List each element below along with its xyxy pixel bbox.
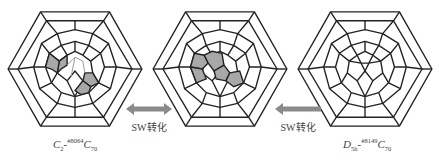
sw-transformation-label: SW转化 <box>126 119 172 134</box>
molecule-c2-8064 <box>6 8 144 130</box>
atom-count: 70 <box>91 145 98 152</box>
caption-right-molecule: D5h-#8149C70 <box>343 137 391 152</box>
fullerene-schlegel-diagram <box>6 8 144 130</box>
left-arrow-icon <box>275 103 321 115</box>
isomer-number: #8064 <box>67 137 83 144</box>
element: C <box>84 138 91 150</box>
double-arrow-icon <box>126 103 172 115</box>
sw-transformation-label: SW转化 <box>275 119 321 134</box>
atom-count: 70 <box>385 145 392 152</box>
element: C <box>377 138 384 150</box>
point-group: D <box>343 138 351 150</box>
sw-transformation-arrow-1: SW转化 <box>126 103 172 137</box>
sw-transformation-arrow-2: SW转化 <box>275 103 321 137</box>
isomer-number: #8149 <box>361 137 377 144</box>
caption-left-molecule: C2-#8064C70 <box>53 137 97 152</box>
